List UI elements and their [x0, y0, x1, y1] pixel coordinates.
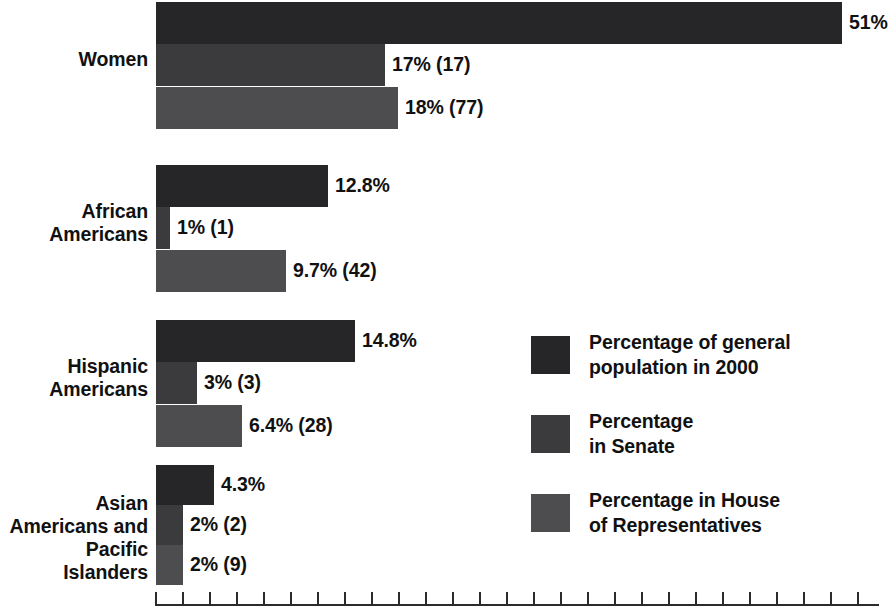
value-label-asian-americans-general-population: 4.3% [221, 473, 265, 496]
x-axis-tick [209, 592, 211, 604]
category-label-women: Women [78, 48, 148, 71]
bar-asian-americans-senate [156, 505, 183, 545]
x-axis-line [155, 604, 879, 606]
bar-women-house [156, 87, 398, 129]
x-axis-tick [263, 592, 265, 604]
x-axis-tick [371, 592, 373, 604]
category-label-african-americans: African Americans [49, 200, 148, 246]
x-axis-tick [830, 592, 832, 604]
bar-asian-americans-general-population [156, 465, 214, 505]
bar-women-general-population [156, 2, 842, 44]
legend-item-house: Percentage in House of Representatives [531, 488, 791, 538]
value-label-asian-americans-senate: 2% (2) [190, 513, 247, 536]
x-axis-tick [560, 592, 562, 604]
bar-hispanic-americans-senate [156, 362, 197, 404]
legend-item-general-population: Percentage of general population in 2000 [531, 330, 791, 380]
bar-african-americans-general-population [156, 165, 328, 207]
value-label-asian-americans-house: 2% (9) [190, 553, 247, 576]
x-axis-tick [776, 592, 778, 604]
bar-chart: Women African Americans Hispanic America… [0, 0, 896, 616]
x-axis-tick [155, 592, 157, 604]
x-axis-tick [317, 592, 319, 604]
x-axis-tick [857, 592, 859, 604]
legend-swatch-icon-house [531, 494, 570, 532]
x-axis-tick [668, 592, 670, 604]
x-axis-tick [182, 592, 184, 604]
legend-item-senate: Percentage in Senate [531, 409, 791, 459]
legend-label-senate: Percentage in Senate [589, 409, 693, 459]
bar-asian-americans-house [156, 545, 183, 585]
value-label-african-americans-house: 9.7% (42) [293, 259, 377, 282]
bar-african-americans-house [156, 250, 286, 292]
legend-swatch-icon-senate [531, 415, 570, 453]
value-label-hispanic-americans-general-population: 14.8% [362, 329, 417, 352]
x-axis-tick [398, 592, 400, 604]
x-axis-tick [236, 592, 238, 604]
value-label-hispanic-americans-house: 6.4% (28) [249, 414, 333, 437]
x-axis-tick [803, 592, 805, 604]
x-axis-tick [452, 592, 454, 604]
x-axis-tick [614, 592, 616, 604]
value-label-african-americans-general-population: 12.8% [335, 174, 390, 197]
x-axis-tick [506, 592, 508, 604]
value-label-women-general-population: 51% [849, 11, 888, 34]
bar-african-americans-senate [156, 207, 170, 249]
legend-label-general-population: Percentage of general population in 2000 [589, 330, 791, 380]
chart-legend: Percentage of general population in 2000… [531, 330, 791, 567]
x-axis-tick [695, 592, 697, 604]
x-axis-tick [290, 592, 292, 604]
category-label-hispanic-americans: Hispanic Americans [49, 355, 148, 401]
bar-women-senate [156, 44, 385, 86]
x-axis-tick [749, 592, 751, 604]
x-axis-tick [533, 592, 535, 604]
x-axis-tick [641, 592, 643, 604]
value-label-hispanic-americans-senate: 3% (3) [204, 371, 261, 394]
value-label-women-house: 18% (77) [405, 96, 483, 119]
category-label-asian-americans-pacific-islanders: Asian Americans and Pacific Islanders [0, 492, 148, 584]
legend-swatch-icon-general-population [531, 336, 570, 374]
bar-hispanic-americans-general-population [156, 320, 355, 362]
x-axis-tick [425, 592, 427, 604]
legend-label-house: Percentage in House of Representatives [589, 488, 780, 538]
bar-hispanic-americans-house [156, 405, 242, 447]
x-axis-tick [587, 592, 589, 604]
value-label-women-senate: 17% (17) [392, 53, 470, 76]
value-label-african-americans-senate: 1% (1) [177, 216, 234, 239]
x-axis-tick [344, 592, 346, 604]
x-axis-tick [722, 592, 724, 604]
x-axis-tick [479, 592, 481, 604]
